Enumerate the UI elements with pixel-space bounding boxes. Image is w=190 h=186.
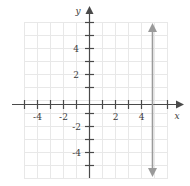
coordinate-plane-graph: -4 -2 2 4 4 2 -2 -4 y x (0, 0, 190, 186)
x-tick-label-pos4: 4 (139, 112, 145, 122)
y-tick-label-neg2: -2 (72, 122, 81, 132)
grid-horizontal-lines (24, 23, 168, 179)
x-tick-label-neg2: -2 (59, 112, 68, 122)
line-arrow-up-icon (148, 23, 157, 32)
y-axis-arrow-icon (86, 6, 94, 14)
x-axis-arrow-icon (176, 101, 184, 109)
x-axis-label: x (174, 111, 179, 121)
line-arrow-down-icon (148, 168, 157, 177)
y-axis-label: y (74, 6, 81, 16)
x-tick-label-neg4: -4 (33, 112, 42, 122)
graph-canvas: -4 -2 2 4 4 2 -2 -4 y x (0, 0, 190, 186)
y-tick-label-neg4: -4 (72, 148, 81, 158)
x-tick-label-pos2: 2 (113, 112, 119, 122)
y-tick-label-pos2: 2 (73, 70, 79, 80)
y-tick-label-pos4: 4 (73, 44, 79, 54)
